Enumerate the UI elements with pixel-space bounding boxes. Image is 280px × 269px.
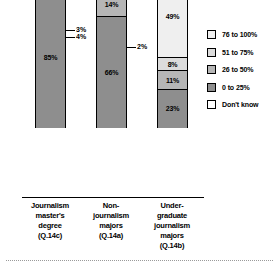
category-label-line: journalism bbox=[141, 221, 203, 231]
category-label-line: Under- bbox=[141, 201, 203, 211]
category-label-undergraduate-journalism-majors: Under- graduate journalism majors (Q.14b… bbox=[141, 201, 203, 251]
category-label-line: majors bbox=[141, 231, 203, 241]
category-label-journalism-masters-degree: Journalism master's degree (Q.14c) bbox=[19, 201, 81, 241]
callout-bar1-51-to-75: 4% bbox=[76, 33, 86, 40]
segment-26-to-50[interactable]: 11% bbox=[158, 71, 187, 89]
legend-item-76-to-100[interactable]: 76 to 100% bbox=[207, 26, 279, 44]
category-label-line: (Q.14b) bbox=[141, 241, 203, 251]
plot-area: 9% 85% 3% 4% 9% 9% 14% 66% bbox=[0, 0, 210, 200]
stacked-bar-chart: 9% 85% 3% 4% 9% 9% 14% 66% bbox=[0, 0, 280, 269]
segment-0-to-25[interactable]: 66% bbox=[97, 17, 126, 128]
category-label-line: journalism bbox=[80, 211, 142, 221]
footer-divider bbox=[6, 260, 274, 261]
legend-item-0-to-25[interactable]: 0 to 25% bbox=[207, 79, 279, 97]
legend-item-label: 26 to 50% bbox=[222, 66, 253, 73]
segment-value-label: 49% bbox=[166, 13, 179, 20]
legend-item-51-to-75[interactable]: 51 to 75% bbox=[207, 44, 279, 62]
legend-swatch-icon bbox=[207, 30, 216, 39]
segment-0-to-25[interactable]: 23% bbox=[158, 90, 187, 128]
category-label-line: majors bbox=[80, 221, 142, 231]
legend-item-label: 0 to 25% bbox=[222, 84, 250, 91]
leader-line-bar1-51-to-75 bbox=[66, 37, 75, 38]
segment-76-to-100[interactable]: 49% bbox=[158, 0, 187, 58]
category-label-line: degree bbox=[19, 221, 81, 231]
leader-line-bar2-51-to-75 bbox=[127, 47, 136, 48]
legend-item-label: 76 to 100% bbox=[222, 31, 257, 38]
legend-item-26-to-50[interactable]: 26 to 50% bbox=[207, 61, 279, 79]
legend-swatch-icon bbox=[207, 65, 216, 74]
legend-item-label: Don't know bbox=[222, 101, 258, 108]
callout-bar1-76-to-100: 3% bbox=[76, 26, 86, 33]
bar-journalism-masters-degree[interactable]: 9% 85% bbox=[35, 0, 66, 128]
segment-0-to-25[interactable]: 85% bbox=[36, 0, 65, 128]
bar-non-journalism-majors[interactable]: 9% 9% 14% 66% bbox=[96, 0, 127, 128]
callout-bar2-51-to-75: 2% bbox=[137, 43, 147, 50]
x-axis-line bbox=[22, 197, 204, 198]
legend: 76 to 100% 51 to 75% 26 to 50% 0 to 25% … bbox=[207, 26, 279, 114]
category-label-line: Journalism bbox=[19, 201, 81, 211]
category-label-line: (Q.14c) bbox=[19, 231, 81, 241]
segment-value-label: 23% bbox=[166, 105, 179, 112]
category-label-line: Non- bbox=[80, 201, 142, 211]
bar-undergraduate-journalism-majors[interactable]: 10% 49% 8% 11% 23% bbox=[157, 0, 188, 128]
segment-value-label: 11% bbox=[166, 77, 179, 84]
legend-swatch-icon bbox=[207, 83, 216, 92]
legend-swatch-icon bbox=[207, 48, 216, 57]
category-label-non-journalism-majors: Non- journalism majors (Q.14a) bbox=[80, 201, 142, 241]
category-label-line: graduate bbox=[141, 211, 203, 221]
segment-value-label: 14% bbox=[105, 1, 118, 8]
segment-26-to-50[interactable]: 14% bbox=[97, 0, 126, 17]
legend-item-label: 51 to 75% bbox=[222, 49, 253, 56]
legend-swatch-icon bbox=[207, 100, 216, 109]
segment-51-to-75[interactable]: 8% bbox=[158, 58, 187, 71]
segment-value-label: 66% bbox=[105, 69, 118, 76]
segment-value-label: 85% bbox=[44, 54, 57, 61]
leader-line-bar1-76-to-100 bbox=[66, 30, 75, 31]
category-label-line: master's bbox=[19, 211, 81, 221]
category-label-line: (Q.14a) bbox=[80, 231, 142, 241]
legend-item-dont-know[interactable]: Don't know bbox=[207, 96, 279, 114]
segment-value-label: 8% bbox=[168, 61, 178, 68]
